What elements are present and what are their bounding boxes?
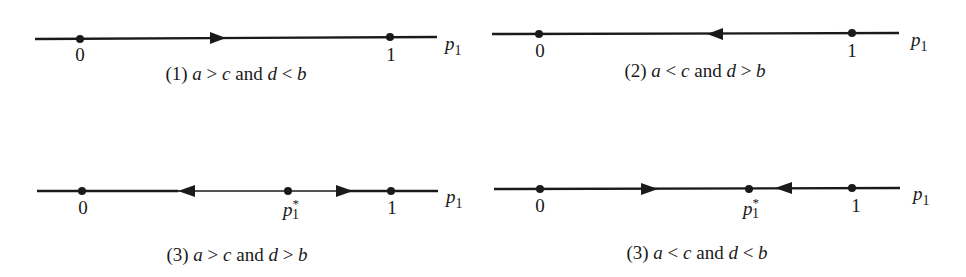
point-p1-star xyxy=(284,187,292,195)
point-1 xyxy=(386,33,394,41)
panel-3b: 0 p*1 1 p1 (3) a < c and d < b xyxy=(494,182,930,264)
point-p1-star-label: p*1 xyxy=(741,195,759,221)
panel-3a: 0 p*1 1 p1 (3) a > c and d > b xyxy=(37,185,463,266)
point-1-label: 1 xyxy=(387,197,397,218)
panel-caption: (3) a < c and d < b xyxy=(626,242,767,264)
arrow-left-icon xyxy=(178,185,195,197)
point-1 xyxy=(387,187,395,195)
point-p1-star xyxy=(745,185,753,193)
panel-1: 0 1 p1 (1) a > c and d < b xyxy=(35,32,462,85)
axis-label: p1 xyxy=(443,33,462,58)
panel-2: 0 1 p1 (2) a < c and d > b xyxy=(492,28,928,82)
point-0 xyxy=(78,187,86,195)
point-p1-star-label: p*1 xyxy=(281,196,299,222)
panel-caption: (1) a > c and d < b xyxy=(165,63,306,85)
point-0-label: 0 xyxy=(535,40,545,61)
panel-caption: (2) a < c and d > b xyxy=(624,60,765,82)
arrow-left-icon xyxy=(707,28,723,40)
point-0 xyxy=(76,35,84,43)
phase-diagrams: 0 1 p1 (1) a > c and d < b 0 1 p1 (2) a … xyxy=(0,0,966,277)
axis-label: p1 xyxy=(444,186,463,211)
point-1 xyxy=(848,29,856,37)
point-0-label: 0 xyxy=(78,197,88,218)
arrow-right-icon xyxy=(210,32,226,44)
point-0-label: 0 xyxy=(535,195,545,216)
axis-label: p1 xyxy=(911,183,930,208)
axis-line xyxy=(492,33,899,34)
axis-label: p1 xyxy=(909,29,928,54)
point-1 xyxy=(848,184,856,192)
point-0-label: 0 xyxy=(75,44,85,65)
point-0 xyxy=(536,185,544,193)
point-1-label: 1 xyxy=(386,44,396,65)
point-1-label: 1 xyxy=(847,40,857,61)
arrow-right-icon xyxy=(641,183,658,195)
axis-line xyxy=(35,37,437,39)
panel-caption: (3) a > c and d > b xyxy=(166,244,307,266)
point-0 xyxy=(535,30,543,38)
arrow-right-icon xyxy=(336,185,353,197)
axis-line xyxy=(494,188,900,189)
point-1-label: 1 xyxy=(851,195,861,216)
arrow-left-icon xyxy=(775,182,792,194)
